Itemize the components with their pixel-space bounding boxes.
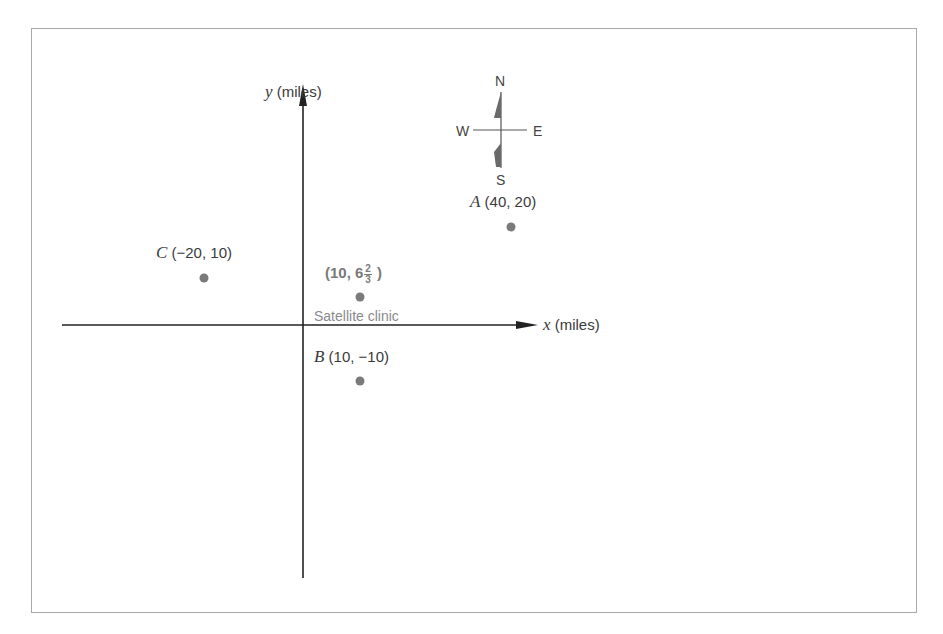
point-c-coords: (−20, 10) bbox=[172, 244, 232, 261]
x-axis-arrow-icon bbox=[516, 321, 538, 329]
compass-west-label: W bbox=[456, 123, 469, 139]
y-axis-variable: y bbox=[265, 82, 273, 101]
y-axis-unit: (miles) bbox=[277, 83, 322, 100]
point-a-label: A (40, 20) bbox=[470, 192, 536, 212]
clinic-marker bbox=[356, 293, 365, 302]
point-c-marker bbox=[200, 274, 209, 283]
x-axis-variable: x bbox=[543, 315, 551, 334]
x-axis-unit: (miles) bbox=[555, 316, 600, 333]
point-a-letter: A bbox=[470, 192, 480, 211]
clinic-coord-suffix: ) bbox=[377, 264, 382, 281]
point-b-coords: (10, −10) bbox=[329, 348, 389, 365]
y-axis-label: y (miles) bbox=[265, 82, 322, 102]
point-b-marker bbox=[356, 377, 365, 386]
compass-south-label: S bbox=[496, 172, 505, 188]
clinic-coord-prefix: (10, 6 bbox=[325, 264, 363, 281]
compass-north-label: N bbox=[495, 73, 505, 89]
point-a-marker bbox=[507, 223, 516, 232]
compass-east-label: E bbox=[533, 123, 542, 139]
compass-icon bbox=[473, 92, 527, 168]
point-b-label: B (10, −10) bbox=[314, 347, 389, 367]
point-c-label: C (−20, 10) bbox=[156, 243, 232, 263]
clinic-label: Satellite clinic bbox=[314, 308, 399, 324]
point-c-letter: C bbox=[156, 243, 167, 262]
point-a-coords: (40, 20) bbox=[485, 193, 537, 210]
x-axis-label: x (miles) bbox=[543, 315, 600, 335]
fraction-denominator: 3 bbox=[364, 275, 372, 285]
clinic-fraction: 23 bbox=[364, 264, 372, 285]
clinic-coords: (10, 623 ) bbox=[325, 264, 382, 285]
coordinate-plane bbox=[0, 0, 943, 634]
point-b-letter: B bbox=[314, 347, 324, 366]
